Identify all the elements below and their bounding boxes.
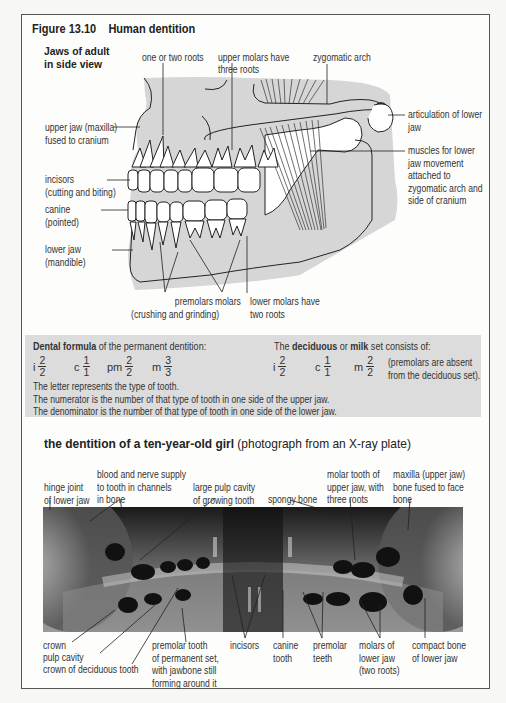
label-line: (mandible) xyxy=(45,257,86,270)
fraction: 22 xyxy=(278,355,286,378)
label-incisors: incisors (cutting and biting) xyxy=(45,174,116,199)
label-line: upper jaw (maxilla) xyxy=(45,122,117,135)
heading-bold: Dental formula xyxy=(33,340,96,352)
label-line: forming around it xyxy=(152,678,219,691)
label-line: large pulp cavity xyxy=(193,482,255,495)
label-line: premolar xyxy=(313,640,347,653)
deciduous-incisors: i22 xyxy=(273,355,286,378)
label-maxilla: maxilla (upper jaw) bone fused to face b… xyxy=(393,469,465,507)
formula-letter: c xyxy=(315,361,321,373)
label-line: three roots xyxy=(327,494,384,507)
denominator: 2 xyxy=(39,367,45,378)
label-line: (cutting and biting) xyxy=(45,187,116,200)
label-zygomatic-arch: zygomatic arch xyxy=(313,52,371,65)
fraction: 22 xyxy=(125,355,133,378)
formula-molars: m33 xyxy=(152,355,172,378)
fraction: 11 xyxy=(83,355,91,378)
label-line: canine xyxy=(273,640,298,653)
label-line: molars of xyxy=(359,640,400,653)
label-line: (two roots) xyxy=(359,665,400,678)
label-crown-deciduous: crown of deciduous tooth xyxy=(43,664,139,677)
note-line: from the deciduous set). xyxy=(388,370,480,383)
label-line: lower jaw xyxy=(45,244,86,257)
deciduous-note: (premolars are absent from the deciduous… xyxy=(388,357,480,382)
label-pulp-growing: large pulp cavity of growing tooth xyxy=(193,482,255,507)
label-line: zygomatic arch and xyxy=(408,183,483,196)
label-upper-molars-line2: three roots xyxy=(218,64,259,77)
label-line: blood and nerve supply xyxy=(97,469,186,482)
label-canine: canine (pointed) xyxy=(45,204,79,229)
xray-image xyxy=(43,507,463,632)
label-line: of permanent set, xyxy=(152,653,219,666)
label-compact-bone: compact bone of lower jaw xyxy=(412,640,466,665)
heading-text: of the permanent dentition: xyxy=(96,340,206,352)
label-muscles: muscles for lower jaw movement attached … xyxy=(408,145,483,208)
label-line: jaw xyxy=(408,122,482,135)
label-line: of lower jaw xyxy=(44,495,89,508)
label-line: (crushing and grinding) xyxy=(131,309,219,322)
formula-letter: i xyxy=(33,361,35,373)
denominator: 2 xyxy=(126,367,132,378)
label-lower-jaw: lower jaw (mandible) xyxy=(45,244,86,269)
label-line: lower jaw xyxy=(359,653,400,666)
label-line: in bone xyxy=(97,494,186,507)
deciduous-formula-heading: The deciduous or milk set consists of: xyxy=(274,340,431,353)
label-line: molar tooth of xyxy=(327,469,384,482)
xray-title-rest: (photograph from an X-ray plate) xyxy=(234,436,411,451)
label-articulation: articulation of lower jaw xyxy=(408,109,482,134)
xray-photograph xyxy=(43,507,463,632)
label-line: upper jaw, with xyxy=(327,482,384,495)
fraction: 22 xyxy=(38,355,46,378)
label-line: with jawbone still xyxy=(152,665,219,678)
label-pulp-cavity: pulp cavity xyxy=(43,652,84,665)
label-line: (pointed) xyxy=(45,217,79,230)
denominator: 1 xyxy=(84,367,90,378)
heading-text: set consists of: xyxy=(368,340,430,352)
deciduous-molars: m22 xyxy=(354,355,374,378)
formula-letter: m xyxy=(152,361,161,373)
fraction: 22 xyxy=(366,355,374,378)
label-line: to tooth in channels xyxy=(97,482,186,495)
heading-text: The xyxy=(274,340,292,352)
label-line: lower molars have xyxy=(250,296,320,309)
label-line: tooth xyxy=(273,653,298,666)
label-line: articulation of lower xyxy=(408,109,482,122)
label-upper-jaw: upper jaw (maxilla) fused to cranium xyxy=(45,122,117,147)
note-line: The letter represents the type of tooth. xyxy=(33,381,337,394)
label-line: two roots xyxy=(250,309,320,322)
label-premolars: premolars (crushing and grinding) xyxy=(150,296,219,321)
label-one-or-two-roots: one or two roots xyxy=(142,52,204,65)
fraction: 11 xyxy=(324,355,332,378)
denominator: 1 xyxy=(325,367,331,378)
label-line: teeth xyxy=(313,653,347,666)
label-incisors-xray: incisors xyxy=(230,640,259,653)
label-line: of lower jaw xyxy=(412,653,466,666)
label-lower-molars: lower molars have two roots xyxy=(250,296,320,321)
label-line: jaw movement xyxy=(408,158,483,171)
formula-explanation: The letter represents the type of tooth.… xyxy=(33,381,337,419)
formula-incisors: i22 xyxy=(33,355,46,378)
label-premolar-teeth: premolar teeth xyxy=(313,640,347,665)
formula-letter: m xyxy=(354,361,363,373)
label-line: premolar tooth xyxy=(152,640,219,653)
label-line: premolars xyxy=(150,296,219,309)
label-line: maxilla (upper jaw) xyxy=(393,469,465,482)
label-premolar-permanent: premolar tooth of permanent set, with ja… xyxy=(152,640,219,690)
formula-canine: c11 xyxy=(74,355,90,378)
note-line: (premolars are absent xyxy=(388,357,480,370)
formula-letter: pm xyxy=(107,361,122,373)
label-blood-nerve: blood and nerve supply to tooth in chann… xyxy=(97,469,186,507)
fraction: 33 xyxy=(164,355,172,378)
label-line: attached to xyxy=(408,170,483,183)
label-upper-molar: molar tooth of upper jaw, with three roo… xyxy=(327,469,384,507)
xray-title: the dentition of a ten-year-old girl (ph… xyxy=(44,436,411,451)
label-lower-molars-xray: molars of lower jaw (two roots) xyxy=(359,640,400,678)
formula-letter: i xyxy=(273,361,275,373)
formula-letter: c xyxy=(74,361,80,373)
label-canine-tooth: canine tooth xyxy=(273,640,298,665)
heading-text: or xyxy=(337,340,350,352)
label-line: hinge joint xyxy=(44,482,89,495)
label-line: fused to cranium xyxy=(45,135,117,148)
label-line: of growing tooth xyxy=(193,495,255,508)
label-line: bone xyxy=(393,494,465,507)
